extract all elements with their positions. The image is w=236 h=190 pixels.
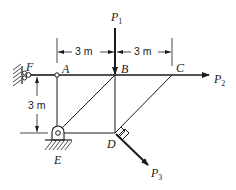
label-a: A (62, 63, 69, 75)
truss-members (31, 75, 172, 133)
dimension-label-bc: 3 m (133, 46, 153, 57)
member-dc (115, 75, 172, 133)
label-d: D (107, 138, 116, 150)
truss-diagram (0, 0, 236, 190)
label-b: B (121, 63, 128, 75)
label-p3: P3 (151, 167, 162, 182)
label-c: C (176, 62, 184, 74)
label-e: E (54, 154, 61, 166)
member-eb (59, 75, 115, 131)
label-f: F (26, 61, 33, 73)
joint-a (55, 73, 59, 77)
dimension-label-ab: 3 m (74, 46, 94, 57)
pin-support-e (45, 126, 72, 150)
label-p2: P2 (214, 73, 225, 88)
label-p1: P1 (111, 11, 122, 26)
dimension-label-vertical: 3 m (27, 100, 47, 111)
